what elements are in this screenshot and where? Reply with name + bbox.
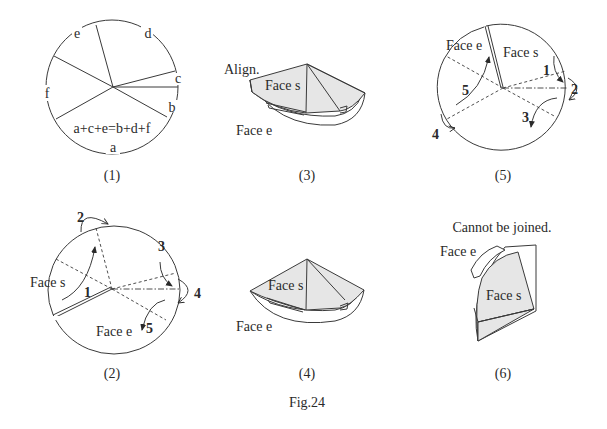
figure-title: Fig.24 bbox=[289, 395, 325, 410]
panel-5-face-s-label: Face s bbox=[503, 45, 538, 60]
arc-label-a: a bbox=[110, 140, 117, 155]
cannot-be-joined-note: Cannot be joined. bbox=[452, 220, 551, 235]
align-note: Align. bbox=[224, 62, 259, 77]
arc-label-b: b bbox=[169, 100, 176, 115]
panel-2-face-e-label: Face e bbox=[96, 324, 132, 339]
arc-label-e: e bbox=[74, 26, 80, 41]
panel-6-face-e-label: Face e bbox=[440, 244, 476, 259]
step-2: 2 bbox=[77, 210, 84, 225]
panel-3-face-s-label: Face s bbox=[265, 78, 300, 93]
panel-4-face-e-label: Face e bbox=[236, 319, 272, 334]
step-4: 4 bbox=[432, 127, 439, 142]
step-1: 1 bbox=[84, 285, 91, 300]
panel-6-face-s-label: Face s bbox=[486, 288, 521, 303]
panel-2-fold-sequence: 3 1 2 4 5 Face s Face e (2) bbox=[30, 210, 201, 382]
angle-equation: a+c+e=b+d+f bbox=[74, 121, 151, 136]
panel-3-face-e-label: Face e bbox=[236, 123, 272, 138]
step-1: 1 bbox=[543, 63, 550, 78]
panel-1-caption: (1) bbox=[104, 168, 121, 184]
panel-1-radial-lines bbox=[54, 25, 178, 119]
panel-1-crease-pattern: a b c d e f a+c+e=b+d+f (1) bbox=[42, 20, 184, 184]
panel-5-fold-sequence: 1 2 3 4 5 Face e Face s (5) bbox=[432, 24, 578, 184]
panel-4-folded-fan: Face s Face e (4) bbox=[236, 259, 364, 382]
figure-24: a b c d e f a+c+e=b+d+f (1) Align. Face … bbox=[0, 0, 607, 429]
step-4: 4 bbox=[194, 286, 201, 301]
panel-2-face-s-label: Face s bbox=[30, 275, 65, 290]
panel-4-face-s-label: Face s bbox=[268, 278, 303, 293]
step-5: 5 bbox=[146, 321, 153, 336]
arc-label-c: c bbox=[175, 71, 181, 86]
step-5: 5 bbox=[462, 83, 469, 98]
panel-6-caption: (6) bbox=[495, 366, 512, 382]
panel-6-failed-join: Cannot be joined. Face e Face s (6) bbox=[440, 220, 552, 382]
panel-3-caption: (3) bbox=[299, 168, 316, 184]
panel-5-face-e-label: Face e bbox=[446, 38, 482, 53]
panel-2-caption: (2) bbox=[104, 366, 121, 382]
arc-label-f: f bbox=[45, 86, 50, 101]
panel-4-caption: (4) bbox=[299, 366, 316, 382]
panel-3-folded-fan: Align. Face s Face e (3) bbox=[224, 62, 365, 184]
step-3: 3 bbox=[158, 239, 165, 254]
step-2: 2 bbox=[571, 82, 578, 97]
panel-5-caption: (5) bbox=[495, 168, 512, 184]
step-3: 3 bbox=[522, 110, 529, 125]
arc-label-d: d bbox=[145, 26, 152, 41]
